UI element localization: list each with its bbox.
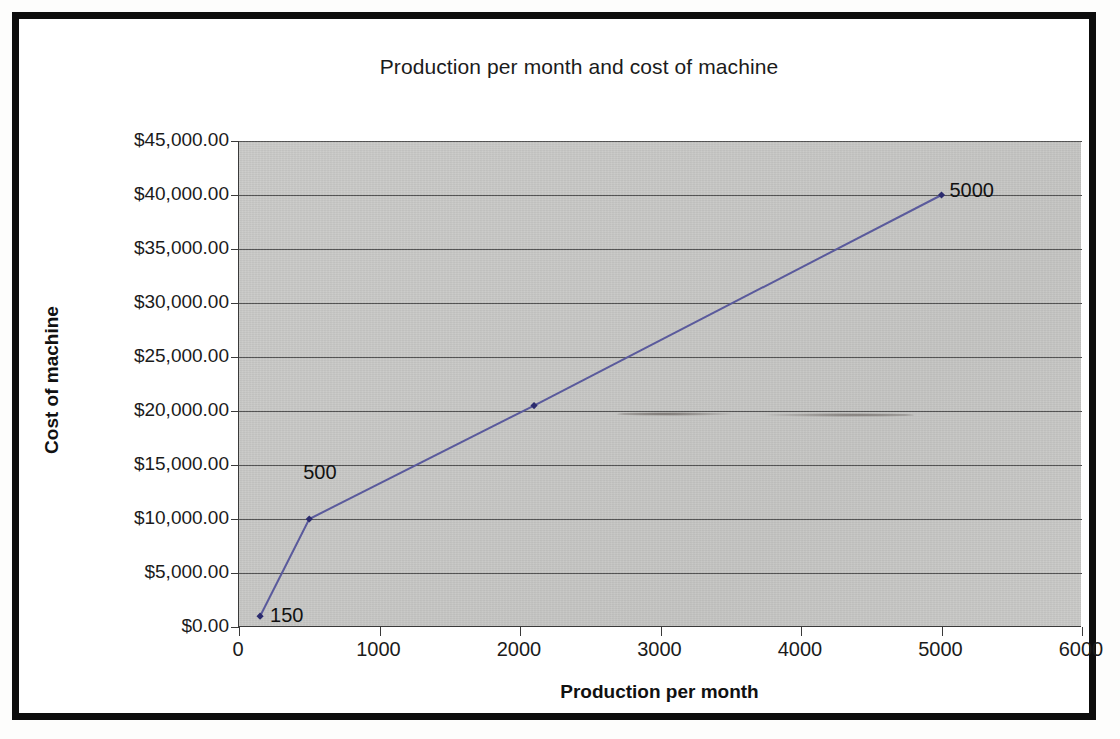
y-axis-tick <box>231 249 239 250</box>
y-axis-title: Cost of machine <box>41 260 63 500</box>
y-axis-tick-label: $40,000.00 <box>39 183 229 205</box>
x-axis-tick <box>801 627 802 636</box>
y-axis-tick <box>231 195 239 196</box>
x-axis-tick-label: 0 <box>178 638 298 661</box>
y-axis-tick-label: $5,000.00 <box>39 561 229 583</box>
x-axis-tick <box>239 627 240 636</box>
data-point-marker <box>306 515 313 522</box>
x-axis-tick <box>661 627 662 636</box>
data-point-label: 150 <box>270 604 303 627</box>
data-point-marker <box>256 613 263 620</box>
y-axis-tick <box>231 519 239 520</box>
y-axis-tick-label: $0.00 <box>39 615 229 637</box>
x-axis-tick-label: 5000 <box>881 638 1001 661</box>
x-axis-tick-label: 1000 <box>319 638 439 661</box>
y-axis-tick-label: $20,000.00 <box>39 399 229 421</box>
plot-area: 1505005000 <box>238 141 1081 627</box>
y-axis-tick-labels: $0.00$5,000.00$10,000.00$15,000.00$20,00… <box>39 141 229 627</box>
data-point-label: 500 <box>303 461 336 484</box>
x-axis-tick-label: 4000 <box>740 638 860 661</box>
x-axis-tick <box>1082 627 1083 636</box>
x-axis-title: Production per month <box>238 681 1081 703</box>
y-axis-tick <box>231 465 239 466</box>
x-axis-tick-label: 2000 <box>459 638 579 661</box>
series-polyline <box>260 195 941 616</box>
y-axis-tick <box>231 411 239 412</box>
y-axis-tick <box>231 357 239 358</box>
series-line <box>239 141 1082 627</box>
x-axis-tick <box>520 627 521 636</box>
x-axis-tick-labels: 0100020003000400050006000 <box>238 638 1081 672</box>
y-axis-tick <box>231 573 239 574</box>
chart-title: Production per month and cost of machine <box>19 55 1120 79</box>
y-axis-tick-label: $30,000.00 <box>39 291 229 313</box>
y-axis-tick-label: $25,000.00 <box>39 345 229 367</box>
x-axis-tick <box>942 627 943 636</box>
data-point-marker <box>938 191 945 198</box>
x-axis-tick-label: 3000 <box>600 638 720 661</box>
y-axis-tick <box>231 141 239 142</box>
y-axis-tick <box>231 627 239 628</box>
x-axis-tick <box>380 627 381 636</box>
data-point-marker <box>530 402 537 409</box>
y-axis-tick-label: $45,000.00 <box>39 129 229 151</box>
chart-frame: Production per month and cost of machine… <box>12 12 1096 720</box>
x-axis-tick-label: 6000 <box>1021 638 1120 661</box>
scanned-page: Production per month and cost of machine… <box>0 0 1120 739</box>
y-axis-tick-label: $10,000.00 <box>39 507 229 529</box>
data-point-label: 5000 <box>950 179 995 202</box>
y-axis-tick-label: $15,000.00 <box>39 453 229 475</box>
y-axis-tick-label: $35,000.00 <box>39 237 229 259</box>
y-axis-tick <box>231 303 239 304</box>
